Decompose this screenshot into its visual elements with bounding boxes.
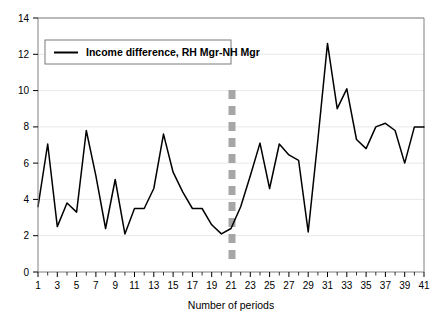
y-axis-label-6: 6: [23, 158, 29, 169]
x-axis-label-39: 39: [399, 280, 411, 291]
x-axis-label-29: 29: [303, 280, 315, 291]
legend: Income difference, RH Mgr-NH Mgr: [45, 40, 260, 64]
x-axis-label-5: 5: [74, 280, 80, 291]
line-chart: 14 12 10 8 6 4 2 0 1 3 5 7 9 11 13 15 17…: [0, 0, 444, 322]
x-axis-label-21: 21: [225, 280, 237, 291]
y-axis-ticks: [33, 18, 38, 272]
x-axis-label-15: 15: [168, 280, 180, 291]
x-axis-ticks: [38, 272, 424, 277]
y-axis-labels: 14 12 10 8 6 4 2 0: [18, 13, 30, 278]
y-axis-label-10: 10: [18, 85, 30, 96]
x-axis-labels: 1 3 5 7 9 11 13 15 17 19 21 23 25 27 29 …: [35, 280, 430, 291]
x-axis-label-1: 1: [35, 280, 41, 291]
x-axis-label-7: 7: [93, 280, 99, 291]
x-axis-label-41: 41: [418, 280, 430, 291]
y-axis-label-14: 14: [18, 13, 30, 24]
y-axis-label-4: 4: [23, 194, 29, 205]
y-axis-label-12: 12: [18, 49, 30, 60]
x-axis-label-3: 3: [55, 280, 61, 291]
x-axis-title: Number of periods: [188, 299, 274, 311]
chart-container: 14 12 10 8 6 4 2 0 1 3 5 7 9 11 13 15 17…: [0, 0, 444, 322]
x-axis-label-19: 19: [206, 280, 218, 291]
y-axis-label-8: 8: [23, 121, 29, 132]
x-axis-label-9: 9: [112, 280, 118, 291]
x-axis-label-35: 35: [361, 280, 373, 291]
y-axis-label-2: 2: [23, 230, 29, 241]
x-axis-label-23: 23: [245, 280, 257, 291]
legend-entry-label: Income difference, RH Mgr-NH Mgr: [86, 46, 260, 58]
x-axis-label-25: 25: [264, 280, 276, 291]
x-axis-label-31: 31: [322, 280, 334, 291]
x-axis-label-13: 13: [148, 280, 160, 291]
x-axis-label-33: 33: [341, 280, 353, 291]
x-axis-label-11: 11: [129, 280, 140, 291]
x-axis-label-17: 17: [187, 280, 199, 291]
y-axis-label-0: 0: [23, 267, 29, 278]
x-axis-label-27: 27: [283, 280, 295, 291]
x-axis-label-37: 37: [380, 280, 392, 291]
